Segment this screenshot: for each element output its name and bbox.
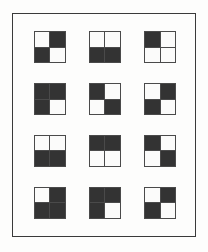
quadrant-top-right — [105, 136, 120, 151]
pattern-cell — [27, 181, 72, 224]
quadrant-top-left — [145, 188, 160, 203]
pattern-tile-9[interactable] — [144, 135, 176, 167]
quadrant-top-right — [50, 136, 65, 151]
pattern-tile-6[interactable] — [144, 83, 176, 115]
quadrant-bottom-left — [35, 100, 50, 115]
pattern-cell — [27, 78, 72, 121]
pattern-cell — [27, 26, 72, 69]
quadrant-bottom-left — [145, 203, 160, 218]
quadrant-bottom-right — [105, 100, 120, 115]
quadrant-top-right — [50, 84, 65, 99]
quadrant-bottom-right — [50, 100, 65, 115]
quadrant-bottom-right — [50, 203, 65, 218]
pattern-tile-8[interactable] — [89, 135, 121, 167]
quadrant-bottom-right — [161, 100, 176, 115]
pattern-tile-4[interactable] — [34, 83, 66, 115]
quadrant-bottom-right — [105, 151, 120, 166]
quadrant-top-right — [50, 32, 65, 47]
quadrant-bottom-right — [50, 48, 65, 63]
quadrant-top-right — [105, 84, 120, 99]
pattern-cell — [82, 181, 127, 224]
quadrant-bottom-left — [90, 203, 105, 218]
figure-sheet — [0, 0, 208, 252]
quadrant-top-left — [35, 32, 50, 47]
quadrant-top-left — [145, 136, 160, 151]
pattern-frame — [12, 13, 196, 237]
quadrant-top-right — [161, 84, 176, 99]
quadrant-bottom-right — [105, 203, 120, 218]
pattern-cell — [138, 130, 183, 173]
pattern-tile-10[interactable] — [34, 187, 66, 219]
pattern-tile-11[interactable] — [89, 187, 121, 219]
quadrant-top-right — [105, 32, 120, 47]
quadrant-top-left — [90, 84, 105, 99]
pattern-cell — [138, 78, 183, 121]
pattern-tile-7[interactable] — [34, 135, 66, 167]
pattern-grid — [13, 14, 197, 238]
quadrant-bottom-right — [161, 203, 176, 218]
quadrant-bottom-left — [35, 151, 50, 166]
pattern-cell — [138, 26, 183, 69]
quadrant-top-left — [35, 84, 50, 99]
pattern-cell — [82, 78, 127, 121]
quadrant-top-left — [90, 188, 105, 203]
quadrant-bottom-right — [161, 151, 176, 166]
pattern-tile-12[interactable] — [144, 187, 176, 219]
quadrant-top-right — [161, 136, 176, 151]
quadrant-top-left — [145, 84, 160, 99]
pattern-cell — [82, 26, 127, 69]
quadrant-bottom-right — [105, 48, 120, 63]
quadrant-top-left — [35, 136, 50, 151]
quadrant-bottom-left — [145, 48, 160, 63]
quadrant-top-left — [145, 32, 160, 47]
quadrant-bottom-left — [90, 100, 105, 115]
quadrant-top-left — [90, 32, 105, 47]
quadrant-bottom-left — [145, 100, 160, 115]
quadrant-top-left — [35, 188, 50, 203]
pattern-tile-5[interactable] — [89, 83, 121, 115]
quadrant-bottom-left — [145, 151, 160, 166]
quadrant-top-right — [161, 188, 176, 203]
pattern-cell — [82, 130, 127, 173]
quadrant-bottom-left — [35, 203, 50, 218]
quadrant-bottom-right — [50, 151, 65, 166]
pattern-tile-2[interactable] — [89, 31, 121, 63]
pattern-tile-1[interactable] — [34, 31, 66, 63]
quadrant-bottom-left — [90, 151, 105, 166]
pattern-cell — [138, 181, 183, 224]
pattern-cell — [27, 130, 72, 173]
pattern-tile-3[interactable] — [144, 31, 176, 63]
quadrant-bottom-left — [35, 48, 50, 63]
quadrant-top-left — [90, 136, 105, 151]
quadrant-bottom-right — [161, 48, 176, 63]
quadrant-top-right — [161, 32, 176, 47]
quadrant-top-right — [50, 188, 65, 203]
quadrant-bottom-left — [90, 48, 105, 63]
quadrant-top-right — [105, 188, 120, 203]
